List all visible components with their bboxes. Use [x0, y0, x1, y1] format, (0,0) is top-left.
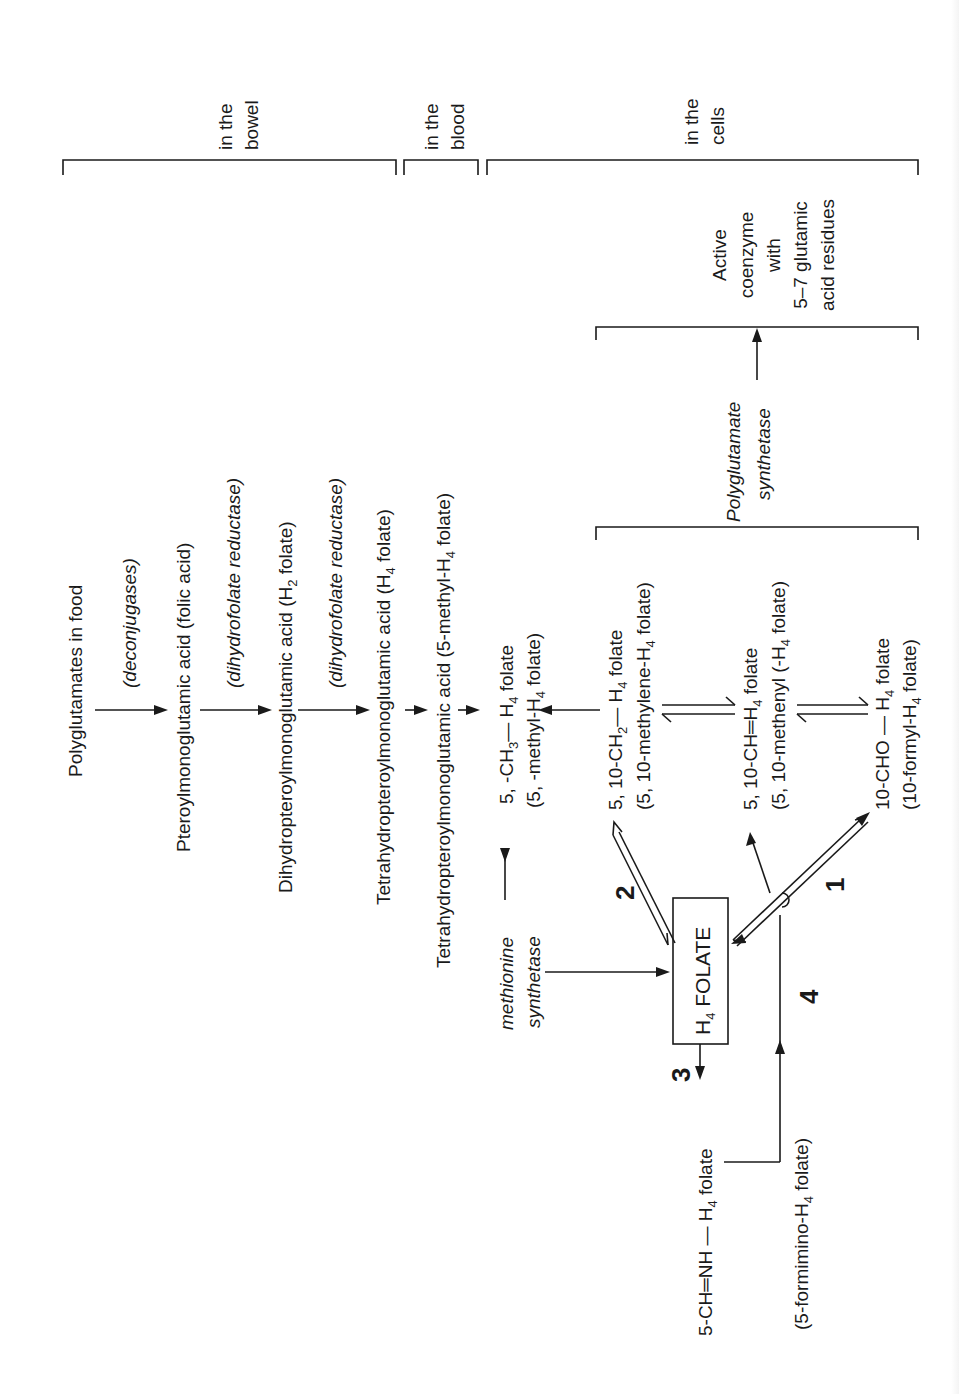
active-coenzyme-line1: Active [709, 229, 730, 281]
folate-metabolism-diagram: in the bowel in the blood in the cells A… [0, 0, 959, 1394]
enzyme-dhfr-1: (dihydrofolate reductase) [223, 478, 244, 688]
label-blood-1: in the [421, 104, 442, 150]
bracket-blood [404, 160, 478, 175]
label-bowel-1: in the [215, 104, 236, 150]
compound-folic-acid: Pteroylmonoglutamic acid (folic acid) [173, 543, 194, 852]
methionine-synthetase-line2: synthetase [523, 936, 544, 1028]
arrow-right-icon [258, 705, 272, 715]
label-bowel-2: bowel [241, 100, 262, 150]
half-arrowhead-icon [662, 714, 671, 722]
absorption-chain: Polyglutamates in food (deconjugases) Pt… [65, 478, 458, 968]
arrow-up-right-icon [856, 812, 870, 826]
methionine-synthetase-line1: methionine [496, 937, 517, 1030]
compound-h2-folate: Dihydropteroylmonoglutamic acid (H2 fola… [275, 521, 300, 893]
bracket-cofactors [596, 527, 918, 540]
reaction-2-path [613, 822, 675, 945]
label-blood-2: blood [447, 104, 468, 151]
arrow-up-icon [746, 832, 756, 846]
page-edge [951, 0, 959, 1394]
compound-h4-folate: Tetrahydropteroylmonoglutamic acid (H4 f… [373, 509, 398, 905]
active-coenzyme-line2: coenzyme [736, 212, 757, 299]
methenyl-branch-line [752, 840, 770, 893]
label-cells-1: in the [681, 99, 702, 145]
active-coenzyme-line5: acid residues [817, 199, 838, 311]
active-coenzyme-line4: 5–7 glutamic [790, 201, 811, 309]
arrow-right-icon [356, 705, 370, 715]
reaction-number-1: 1 [820, 878, 850, 892]
active-coenzyme-line3: with [763, 238, 784, 273]
cofactor-methylene-formula: 5, 10-CH2— H4 folate [605, 630, 630, 810]
half-arrowhead-icon [859, 697, 868, 705]
arrow-right-icon [466, 705, 480, 715]
arrow-right-icon [414, 705, 428, 715]
cofactor-formyl-name: (10-formyl-H4 folate) [899, 639, 924, 810]
bracket-cells [487, 160, 918, 175]
enzyme-deconjugases: (deconjugases) [119, 558, 140, 688]
cofactor-methylene-name: (5, 10-methylene-H4 folate) [633, 582, 658, 810]
arrowhead-up-icon [752, 328, 762, 342]
arrow-up-icon [775, 1040, 785, 1054]
compound-polyglutamates: Polyglutamates in food [65, 585, 86, 777]
arrow-down-icon [500, 848, 510, 862]
reaction-number-4: 4 [794, 989, 824, 1004]
arrow-right-icon [154, 705, 168, 715]
bracket-bowel [63, 160, 396, 175]
cofactor-formyl-formula: 10-CHO — H4 folate [872, 638, 897, 810]
reaction-number-3: 3 [666, 1068, 696, 1082]
cofactor-methyl-formula: 5, -CH3— H4 folate [496, 645, 521, 804]
compartment-brackets [63, 160, 918, 175]
reaction-4-path [724, 915, 785, 1162]
half-arrowhead-icon [726, 697, 735, 705]
half-arrowhead-icon [797, 714, 806, 722]
polyglutamate-synthetase-line2: synthetase [753, 408, 774, 500]
cofactor-formimino-formula: 5-CH═NH — H4 folate [695, 1148, 720, 1336]
reaction-number-2: 2 [610, 886, 640, 900]
compound-5-methyl-h4-folate-absorbed: Tetrahydropteroylmonoglutamic acid (5-me… [433, 493, 458, 968]
cofactor-formimino-name: (5-formimino-H4 folate) [791, 1138, 816, 1330]
h4-folate-box: H4 FOLATE [673, 898, 728, 1044]
cofactor-methenyl-formula: 5, 10-CH═H4 folate [740, 648, 765, 810]
arrow-right-icon [656, 967, 670, 977]
cofactor-methenyl-name: (5, 10-methenyl (-H4 folate) [768, 581, 793, 810]
enzyme-dhfr-2: (dihydrofolate reductase) [325, 478, 346, 688]
arrow-down-icon [695, 1066, 705, 1080]
label-cells-2: cells [707, 107, 728, 145]
polyglutamate-synthetase-line1: Polyglutamate [723, 402, 744, 522]
active-coenzyme-block: Active coenzyme with 5–7 glutamic acid r… [709, 199, 838, 311]
equilibrium-arrows [662, 697, 868, 722]
cofactor-methyl-name: (5, -methyl-H4 folate) [523, 633, 548, 808]
